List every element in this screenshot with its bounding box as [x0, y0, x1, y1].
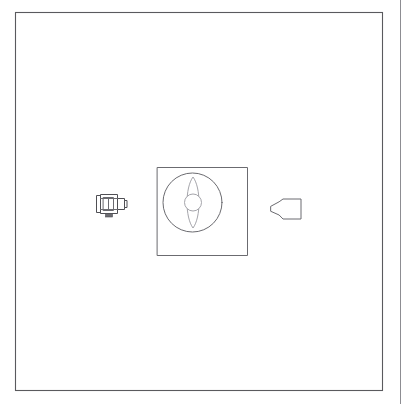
figure-canvas [0, 0, 409, 404]
square-housing-assembly [158, 168, 248, 256]
device-lens-barrel [118, 199, 125, 210]
device-lens-tip [125, 201, 128, 208]
device-rear-flange [97, 196, 101, 213]
center-hub-circle [185, 194, 202, 211]
device-base-stub [106, 214, 113, 218]
figure-page: Technical line drawing figure [0, 0, 409, 404]
